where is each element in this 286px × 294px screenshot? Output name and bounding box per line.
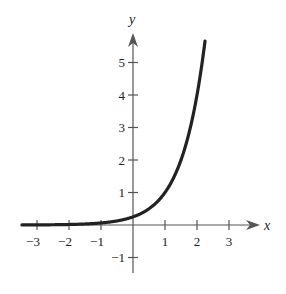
x-axis-label: x xyxy=(263,218,271,233)
y-tick-label: 5 xyxy=(119,55,126,70)
x-tick-label: 3 xyxy=(226,234,233,249)
x-tick-label: 2 xyxy=(194,234,201,249)
y-tick-label: 4 xyxy=(119,88,126,103)
exponential-graph: −3−2−1123−112345 x y xyxy=(0,0,286,294)
y-tick-label: 1 xyxy=(119,185,126,200)
y-tick-label: −1 xyxy=(111,250,125,265)
x-tick-label: −2 xyxy=(58,234,72,249)
x-tick-label: −3 xyxy=(26,234,40,249)
x-tick-label: 1 xyxy=(162,234,169,249)
x-tick-label: −1 xyxy=(90,234,104,249)
y-tick-label: 3 xyxy=(119,120,126,135)
y-axis-label: y xyxy=(127,12,136,27)
y-tick-label: 2 xyxy=(119,153,126,168)
exponential-curve xyxy=(22,41,205,225)
